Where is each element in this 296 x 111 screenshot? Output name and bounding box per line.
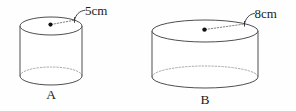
- cylinder-b-dimension-label: 8cm: [255, 6, 277, 21]
- cylinder-a-dimension-label: 5cm: [85, 3, 107, 18]
- cylinder-a-group: 5cm A: [20, 3, 107, 103]
- cylinder-a-leader-line: [75, 10, 86, 20]
- cylinder-b-name-label: B: [200, 92, 209, 107]
- cylinder-b-center-dot: [202, 27, 206, 31]
- cylinder-a-name-label: A: [46, 87, 56, 102]
- cylinder-b-leader-line: [245, 13, 255, 24]
- cylinders-diagram: 5cm A: [0, 0, 296, 111]
- cylinder-b-group: 8cm B: [152, 6, 277, 107]
- cylinder-a-center-dot: [48, 23, 52, 27]
- geometry-figure-canvas: 5cm A: [0, 0, 296, 111]
